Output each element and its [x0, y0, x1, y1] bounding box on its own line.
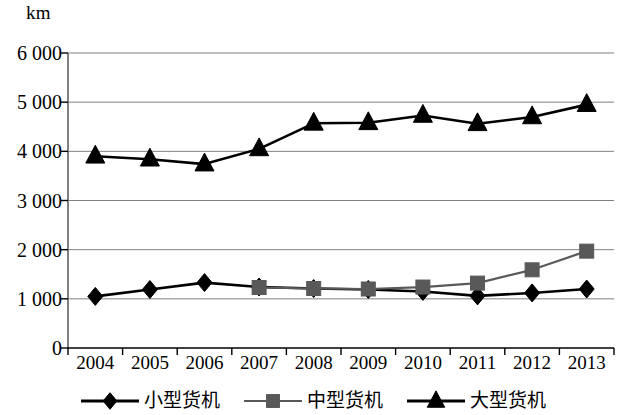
series-line	[95, 105, 586, 164]
data-point-square-marker	[307, 282, 321, 296]
data-point-triangle-marker	[86, 145, 105, 163]
chart-legend: 小型货机中型货机大型货机	[0, 386, 624, 415]
data-point-triangle-marker	[413, 104, 432, 122]
x-axis-tick-label: 2009	[349, 352, 387, 374]
x-axis-tick-label: 2012	[513, 352, 551, 374]
x-axis-tick-label: 2013	[568, 352, 606, 374]
x-axis-tick-label: 2005	[131, 352, 169, 374]
data-point-square-marker	[252, 281, 266, 295]
series-2	[252, 244, 594, 296]
legend-marker-triangle-icon	[405, 390, 467, 412]
legend-item[interactable]: 中型货机	[242, 390, 383, 412]
data-point-square-marker	[266, 394, 279, 407]
legend-item[interactable]: 小型货机	[79, 390, 220, 412]
data-point-diamond-marker	[197, 274, 212, 292]
legend-item[interactable]: 大型货机	[405, 390, 546, 412]
data-point-diamond-marker	[88, 287, 103, 305]
data-point-square-marker	[471, 276, 485, 290]
data-point-square-marker	[580, 244, 594, 258]
x-axis-tick-label: 2011	[459, 352, 496, 374]
data-point-square-marker	[361, 282, 375, 296]
x-axis-tick-label: 2007	[240, 352, 278, 374]
data-point-square-marker	[525, 263, 539, 277]
data-series-layer	[86, 94, 596, 306]
x-axis-tick-label: 2004	[76, 352, 114, 374]
line-chart: km 01 0002 0003 0004 0005 0006 000 20042…	[0, 0, 624, 415]
data-point-triangle-marker	[304, 112, 323, 130]
legend-item-label: 中型货机	[307, 391, 383, 410]
data-point-diamond-marker	[142, 280, 157, 298]
x-axis-ticks	[61, 53, 614, 355]
legend-item-label: 大型货机	[470, 391, 546, 410]
x-axis-tick-label: 2006	[186, 352, 224, 374]
legend-marker-square-icon	[242, 390, 304, 412]
legend-marker-diamond-icon	[79, 390, 141, 412]
data-point-square-marker	[416, 280, 430, 294]
legend-item-label: 小型货机	[144, 391, 220, 410]
x-axis-tick-label: 2010	[404, 352, 442, 374]
series-3	[86, 94, 596, 171]
data-point-triangle-marker	[427, 390, 444, 406]
data-point-diamond-marker	[103, 392, 117, 409]
x-axis-tick-label: 2008	[295, 352, 333, 374]
gridlines	[68, 53, 614, 299]
data-point-diamond-marker	[579, 280, 594, 298]
